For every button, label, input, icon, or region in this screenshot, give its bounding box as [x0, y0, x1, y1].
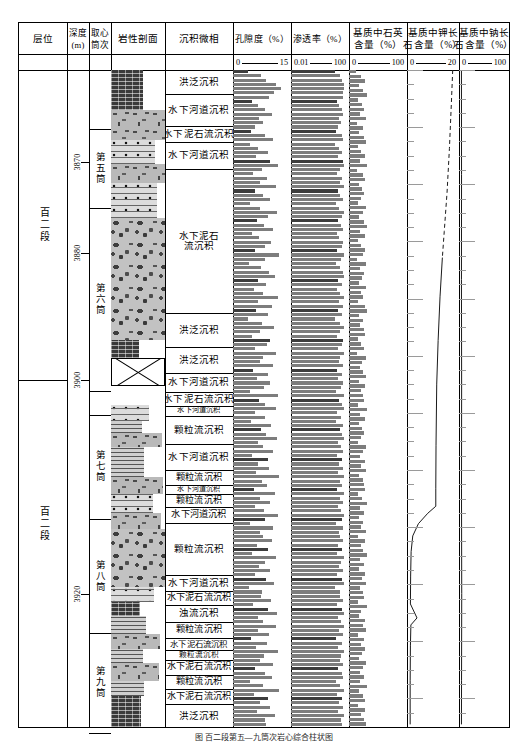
log-bar — [349, 323, 360, 326]
log-bar — [233, 189, 255, 192]
log-bar — [291, 138, 343, 141]
track-tick — [459, 241, 475, 242]
log-bar — [349, 173, 363, 176]
log-bar — [349, 126, 363, 129]
log-bar — [233, 339, 270, 342]
facies-label: 洪泛沉积 — [179, 77, 220, 87]
log-bar — [291, 168, 340, 171]
log-bar — [291, 279, 338, 282]
log-bar — [349, 253, 363, 256]
log-bar — [349, 384, 365, 387]
log-bar — [233, 164, 278, 167]
log-bar — [349, 657, 359, 660]
log-bar — [291, 480, 340, 483]
log-bar — [233, 245, 265, 248]
log-bar — [291, 612, 344, 615]
log-bar — [291, 121, 341, 124]
log-bar — [349, 215, 359, 218]
facies-label: 水下河道沉积 — [177, 486, 220, 494]
log-bar — [349, 572, 365, 575]
log-bar — [349, 478, 363, 481]
log-bar — [291, 117, 339, 120]
log-bar — [349, 375, 366, 378]
log-bar — [349, 178, 365, 181]
log-bar — [233, 236, 259, 239]
facies-divider — [165, 169, 233, 170]
scale-nafeldspar: 0 100 — [459, 54, 509, 70]
log-bar — [233, 228, 273, 231]
track-tick — [407, 156, 414, 157]
log-bar — [233, 706, 270, 709]
facies-label: 水下河道沉积 — [177, 407, 220, 415]
porosity-plot — [233, 70, 291, 727]
log-bar — [291, 377, 338, 380]
log-bar — [349, 356, 366, 359]
log-bar — [233, 518, 265, 521]
track-tick — [407, 484, 414, 485]
facies-label: 水下泥石流沉积 — [165, 129, 233, 139]
log-bar — [291, 113, 343, 116]
log-bar — [233, 458, 268, 461]
log-bar — [291, 518, 342, 521]
log-bar — [233, 556, 276, 559]
track-tick — [407, 556, 414, 557]
log-bar — [349, 474, 359, 477]
log-bar — [349, 610, 361, 613]
track-tick — [407, 170, 414, 171]
log-bar — [233, 710, 257, 713]
log-bar — [291, 185, 344, 188]
lithology-block — [111, 634, 160, 650]
log-bar — [291, 339, 343, 342]
core-run-label: 第九筒 — [95, 666, 105, 699]
core-run-cell: 第八筒 — [89, 519, 111, 632]
facies-divider — [165, 494, 233, 495]
log-bar — [233, 701, 260, 704]
log-bar — [291, 663, 343, 666]
log-bar — [349, 539, 365, 542]
log-bar — [291, 714, 344, 717]
log-bar — [349, 638, 364, 641]
log-bar — [349, 136, 364, 139]
log-bar — [233, 168, 262, 171]
log-bar — [349, 502, 367, 505]
log-bar — [291, 497, 340, 500]
log-bar — [291, 539, 343, 542]
facies-divider — [165, 660, 233, 661]
header-horizon: 层位 — [19, 23, 67, 54]
log-bar — [349, 530, 366, 533]
log-bar — [291, 91, 343, 94]
log-bar — [233, 633, 269, 636]
log-bar — [349, 567, 359, 570]
log-bar — [349, 718, 364, 721]
log-bar — [291, 134, 342, 137]
log-bar — [291, 155, 338, 158]
log-bar — [233, 202, 250, 205]
track-tick — [459, 656, 466, 657]
log-bar — [291, 608, 342, 611]
log-bar — [291, 710, 338, 713]
log-bar — [291, 637, 336, 640]
log-bar — [291, 130, 336, 133]
log-bar — [349, 300, 358, 303]
log-bar — [291, 556, 344, 559]
log-bar — [291, 433, 342, 436]
track-tick — [407, 670, 414, 671]
log-bar — [349, 239, 358, 242]
log-bar — [233, 403, 265, 406]
facies-cell: 颗粒流沉积 — [165, 675, 233, 690]
log-bar — [349, 220, 364, 223]
facies-label: 颗粒流沉积 — [176, 473, 222, 483]
track-tick — [407, 184, 423, 185]
log-bar — [291, 96, 343, 99]
log-bar — [233, 603, 253, 606]
log-bar — [291, 659, 340, 662]
log-bar — [349, 169, 357, 172]
log-bar — [291, 475, 344, 478]
log-bar — [233, 467, 269, 470]
horizon-label: 百二段 — [38, 207, 49, 243]
log-bar — [233, 420, 251, 423]
header-permeability: 渗透率（%） — [291, 23, 349, 54]
track-tick — [459, 541, 466, 542]
log-bar — [349, 624, 363, 627]
log-bar — [291, 531, 339, 534]
